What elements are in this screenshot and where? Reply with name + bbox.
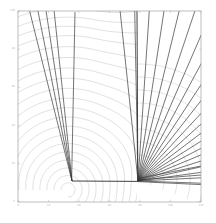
y-tick-label: 100 — [4, 10, 15, 13]
y-tick-label: 80 — [4, 48, 15, 51]
figure-panel: 020406080100120 020406080100 — [0, 0, 216, 223]
x-tick-label: 120 — [199, 205, 204, 208]
x-tick-label: 100 — [168, 205, 173, 208]
x-tick-label: 0 — [17, 205, 19, 208]
plot-background — [18, 11, 201, 202]
y-tick-label: 0 — [4, 201, 15, 204]
y-tick-label: 40 — [4, 124, 15, 127]
y-tick-label: 20 — [4, 163, 15, 166]
y-tick-label: 60 — [4, 86, 15, 89]
x-tick-label: 80 — [138, 205, 141, 208]
plot-canvas — [0, 0, 216, 223]
x-tick-label: 60 — [108, 205, 111, 208]
x-tick-label: 40 — [77, 205, 80, 208]
x-tick-label: 20 — [47, 205, 50, 208]
